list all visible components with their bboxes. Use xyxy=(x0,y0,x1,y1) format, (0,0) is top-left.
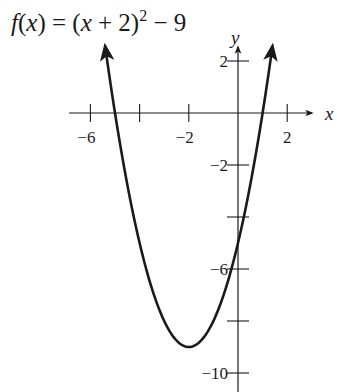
parabola-chart: f(x) = (x + 2)2 − 9 −6−222−2−6−10 x y xyxy=(0,0,337,392)
y-tick-label: −6 xyxy=(210,260,228,279)
ticks xyxy=(90,61,287,373)
x-tick-label: 2 xyxy=(283,128,292,147)
tick-labels: −6−222−2−6−10 xyxy=(77,52,291,383)
y-tick-label: −10 xyxy=(201,364,228,383)
x-axis-label: x xyxy=(324,103,334,124)
axes xyxy=(69,47,312,392)
x-tick-label: −2 xyxy=(176,128,194,147)
y-tick-label: 2 xyxy=(220,52,229,71)
x-tick-label: −6 xyxy=(77,128,95,147)
parabola-curve xyxy=(105,46,272,347)
chart-title: f(x) = (x + 2)2 − 9 xyxy=(11,7,186,37)
y-axis-label: y xyxy=(229,27,240,48)
y-tick-label: −2 xyxy=(210,156,228,175)
